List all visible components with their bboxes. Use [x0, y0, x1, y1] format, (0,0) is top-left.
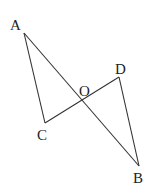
label-A: A [10, 17, 21, 33]
geometry-diagram: A D O C B [0, 0, 153, 196]
label-O: O [79, 83, 90, 99]
segment-AB [24, 33, 139, 166]
diagram-canvas: A D O C B [0, 0, 153, 196]
label-C: C [37, 127, 47, 143]
segment-DB [119, 77, 139, 166]
label-D: D [115, 61, 126, 77]
segment-AC [24, 33, 45, 123]
label-B: B [133, 170, 143, 186]
